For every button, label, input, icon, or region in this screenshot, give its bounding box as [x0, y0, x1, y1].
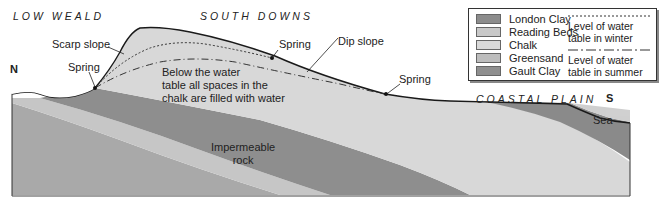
label-spring-right: Spring [399, 73, 431, 85]
label-scarp-slope: Scarp slope [52, 38, 110, 50]
spring-right-point [384, 92, 388, 96]
region-south-downs: SOUTH DOWNS [200, 10, 313, 22]
label-spring-left: Spring [68, 61, 100, 73]
legend-item-reading-beds: Reading Beds [476, 26, 578, 38]
geology-cross-section: LOW WEALD SOUTH DOWNS COASTAL PLAIN N S … [0, 0, 661, 206]
legend-summer-text: Level of water table in summer [568, 54, 643, 78]
legend-box: London Clay Reading Beds Chalk Greensand… [468, 8, 657, 81]
water-table-note-line2: table all spaces in the [162, 79, 285, 92]
legend-label: Gault Clay [509, 65, 560, 77]
dip-slope-leader [307, 38, 338, 72]
legend-label: London Clay [509, 13, 571, 25]
summer-line-sample [568, 48, 650, 52]
water-table-note-line3: chalk are filled with water [162, 92, 285, 105]
label-spring-top: Spring [279, 38, 311, 50]
chalk-swatch [476, 40, 501, 50]
water-table-note: Below the water table all spaces in the … [162, 66, 285, 105]
legend-summer-line1: Level of water [568, 54, 643, 66]
legend-winter-line2: table in winter [568, 32, 633, 44]
spring-right-leader [388, 84, 400, 93]
legend-summer-line2: table in summer [568, 66, 643, 78]
impermeable-rock-line2: rock [211, 154, 275, 167]
water-table-note-line1: Below the water [162, 66, 285, 79]
greensand-swatch [476, 53, 501, 63]
reading-beds-swatch [476, 27, 501, 37]
impermeable-rock-label: Impermeable rock [211, 141, 275, 167]
legend-label: Chalk [509, 39, 537, 51]
legend-winter-line1: Level of water [568, 20, 633, 32]
legend-item-gault-clay: Gault Clay [476, 65, 560, 77]
spring-left-leader [89, 72, 95, 87]
legend-item-london-clay: London Clay [476, 13, 571, 25]
region-low-weald: LOW WEALD [13, 10, 104, 22]
legend-label: Greensand [509, 52, 563, 64]
gault-clay-swatch [476, 66, 501, 76]
compass-south: S [606, 92, 613, 104]
legend-item-greensand: Greensand [476, 52, 563, 64]
legend-winter-text: Level of water table in winter [568, 20, 633, 44]
region-coastal-plain: COASTAL PLAIN [476, 93, 596, 105]
label-dip-slope: Dip slope [338, 35, 384, 47]
label-sea: Sea [593, 114, 613, 126]
impermeable-rock-line1: Impermeable [211, 141, 275, 154]
winter-line-sample [568, 14, 650, 18]
london-clay-swatch [476, 14, 501, 24]
compass-north: N [10, 63, 18, 75]
legend-item-chalk: Chalk [476, 39, 537, 51]
